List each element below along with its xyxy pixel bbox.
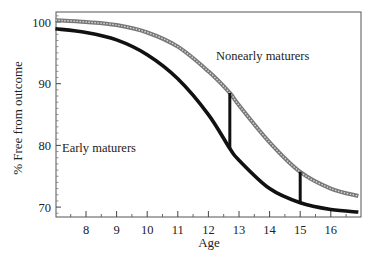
- series-line-early: [55, 29, 358, 212]
- y-tick-label: 100: [32, 16, 51, 30]
- x-tick-label: 15: [294, 223, 307, 237]
- x-tick-label: 16: [325, 223, 338, 237]
- x-axis-label: Age: [198, 235, 220, 250]
- x-axis: 8910111213141516: [71, 211, 346, 237]
- y-tick-label: 70: [39, 201, 52, 215]
- y-tick-label: 80: [39, 139, 52, 153]
- y-axis-label: % Free from outcome: [10, 61, 25, 175]
- series-line-nonearly: [55, 20, 358, 196]
- x-tick-label: 13: [233, 223, 246, 237]
- x-tick-label: 8: [83, 223, 89, 237]
- y-axis: 708090100: [32, 16, 61, 215]
- x-tick-label: 14: [263, 223, 276, 237]
- series-layer: [55, 20, 358, 212]
- x-tick-label: 9: [113, 223, 119, 237]
- series-label-nonearly: Nonearly maturers: [216, 49, 310, 63]
- x-tick-label: 11: [172, 223, 184, 237]
- y-tick-label: 90: [39, 77, 52, 91]
- line-chart: 8910111213141516 708090100 Age % Free fr…: [0, 0, 371, 262]
- x-tick-label: 10: [141, 223, 154, 237]
- series-label-early: Early maturers: [62, 141, 136, 155]
